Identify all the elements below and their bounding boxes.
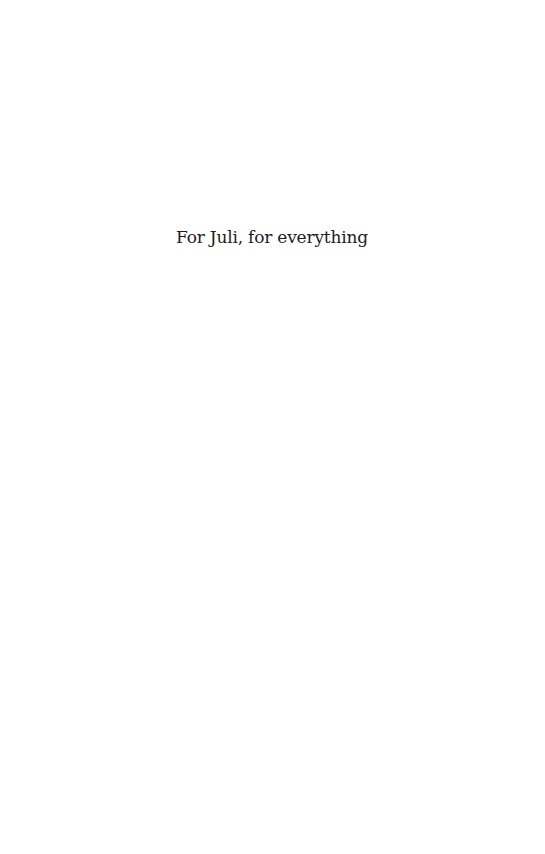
dedication-text: For Juli, for everything [176, 225, 368, 249]
book-page: For Juli, for everything [0, 0, 545, 854]
